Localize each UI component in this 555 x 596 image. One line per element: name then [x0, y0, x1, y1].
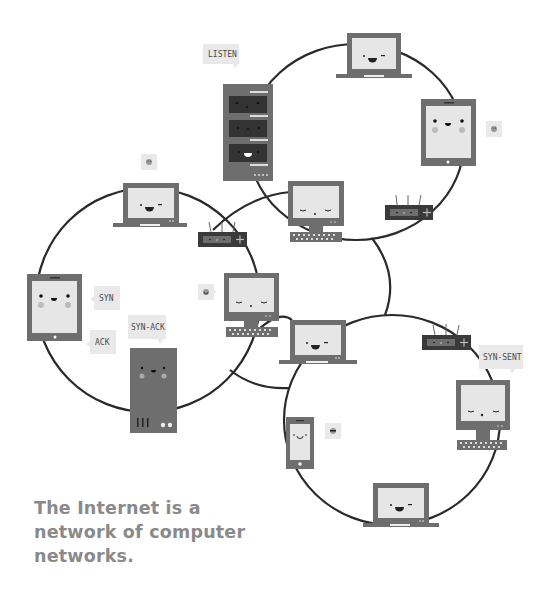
phone: [286, 417, 314, 469]
desktop-center: [224, 273, 279, 337]
syn-label: SYN: [99, 294, 114, 303]
syn-ack-label: SYN-ACK: [131, 323, 165, 332]
tablet-left: [27, 274, 82, 341]
syn-sent-label: SYN-SENT: [483, 353, 522, 362]
emoji-bubble-right: [486, 121, 502, 137]
server-rack: [223, 84, 273, 181]
caption: The Internet is a network of computer ne…: [34, 496, 274, 568]
caption-line-1: The Internet is a: [34, 496, 274, 520]
router-bottom: [422, 324, 471, 350]
tablet-right: [421, 99, 476, 166]
router-top: [385, 195, 433, 220]
laptop-bottom-left: [279, 320, 357, 364]
router-left: [198, 222, 247, 247]
emoji-bubble-bottom: [325, 423, 341, 439]
link-left-bottom: [230, 370, 290, 388]
desktop-right: [456, 380, 510, 450]
ack-label: ACK: [95, 338, 110, 347]
emoji-bubble-top-left: [141, 154, 157, 170]
emoji-bubble-center: [198, 284, 217, 300]
syn-bubble: SYN: [90, 286, 120, 310]
ack-bubble: ACK: [86, 330, 116, 354]
server-tower: [130, 348, 177, 433]
laptop-left: [113, 183, 187, 227]
listen-bubble: LISTEN: [203, 44, 239, 69]
desktop-top: [288, 181, 344, 242]
syn-ack-bubble: SYN-ACK: [128, 315, 166, 344]
laptop-bottom: [363, 483, 439, 527]
listen-label: LISTEN: [208, 50, 237, 59]
link-top-bottom: [372, 238, 390, 315]
caption-line-2: network of computer: [34, 520, 274, 544]
laptop-top: [336, 33, 412, 78]
caption-line-3: networks.: [34, 544, 274, 568]
